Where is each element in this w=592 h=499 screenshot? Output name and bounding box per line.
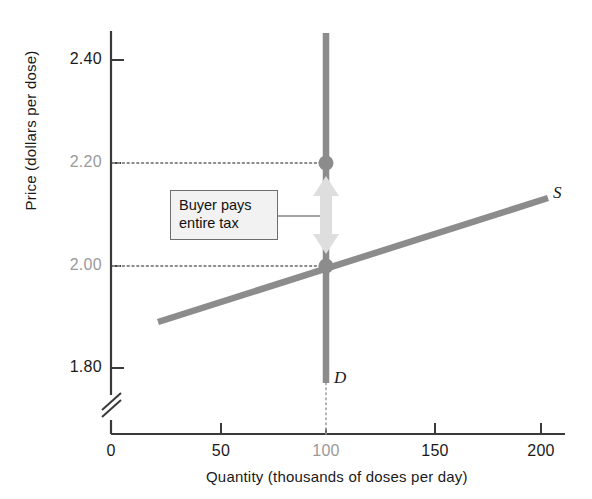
y-tick-label-1-80: 1.80: [32, 358, 102, 376]
x-tick-label-150: 150: [405, 442, 465, 460]
x-tick-label-0: 0: [81, 442, 141, 460]
x-tick-label-50: 50: [191, 442, 251, 460]
buyer-price-point: [319, 156, 334, 171]
tax-incidence-chart: Price (dollars per dose) Quantity (thous…: [0, 0, 592, 499]
tax-arrow: [313, 176, 339, 254]
x-axis-title: Quantity (thousands of doses per day): [206, 468, 468, 485]
y-tick-label-2-20: 2.20: [32, 153, 102, 171]
x-tick-marks: [221, 423, 541, 434]
y-tick-label-2-40: 2.40: [32, 50, 102, 68]
buyer-pays-entire-tax-callout: Buyer pays entire tax: [170, 190, 278, 240]
callout-line-1: Buyer pays: [179, 196, 270, 214]
equilibrium-point: [319, 259, 334, 274]
x-tick-label-100: 100: [296, 442, 356, 460]
y-tick-label-2-00: 2.00: [32, 256, 102, 274]
chart-canvas: [0, 0, 592, 499]
demand-curve-label: D: [334, 368, 346, 388]
y-tick-marks: [111, 60, 124, 368]
callout-line-2: entire tax: [179, 214, 270, 232]
supply-curve-label: S: [553, 183, 562, 203]
x-tick-label-200: 200: [511, 442, 571, 460]
axis-break-icon: [102, 393, 121, 417]
